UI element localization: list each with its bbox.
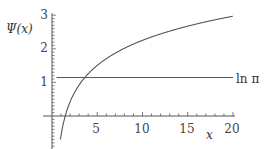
y-tick-2: 2 (40, 41, 48, 55)
x-tick-15: 15 (179, 122, 194, 136)
x-axis-label: x (206, 128, 213, 142)
ln-pi-annotation: ln π (236, 72, 259, 86)
x-tick-20: 20 (224, 122, 239, 136)
digamma-chart: Ψ(x) x ln π 5 10 15 20 1 2 3 (0, 0, 270, 149)
x-tick-10: 10 (134, 122, 149, 136)
y-tick-3: 3 (40, 8, 48, 22)
y-tick-1: 1 (40, 75, 48, 89)
y-axis-label: Ψ(x) (6, 22, 33, 36)
x-tick-5: 5 (92, 122, 100, 136)
